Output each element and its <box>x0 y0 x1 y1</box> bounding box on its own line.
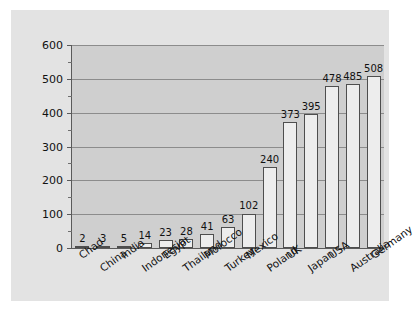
y-axis-minor-tick <box>68 130 72 131</box>
bar[interactable] <box>325 86 339 248</box>
bar-value-label: 240 <box>256 155 284 165</box>
gridline <box>72 45 384 46</box>
bar[interactable] <box>346 84 360 248</box>
chart-panel: 0100200300400500600 23514232841631022403… <box>11 10 389 301</box>
y-axis-labels: 0100200300400500600 <box>11 45 63 248</box>
y-axis-minor-tick <box>68 231 72 232</box>
y-axis-minor-tick <box>68 163 72 164</box>
bar-value-label: 63 <box>214 215 242 225</box>
bar-value-label: 395 <box>297 102 325 112</box>
bar[interactable] <box>304 114 318 248</box>
x-axis-category-labels: ChadChinaIndiaIndonesiaEgyptThailandMoro… <box>11 248 411 311</box>
bar[interactable] <box>367 76 381 248</box>
bar-value-label: 102 <box>235 201 263 211</box>
y-axis-minor-tick <box>68 96 72 97</box>
y-axis-tick <box>67 113 72 114</box>
y-axis-tick <box>67 45 72 46</box>
plot-area: 2351423284163102240373395478485508 <box>71 45 384 249</box>
y-axis-tick-label: 500 <box>15 74 63 85</box>
y-axis-minor-tick <box>68 62 72 63</box>
y-axis-minor-tick <box>68 197 72 198</box>
y-axis-tick <box>67 147 72 148</box>
y-axis-tick-label: 400 <box>15 108 63 119</box>
bar-value-label: 508 <box>360 64 388 74</box>
y-axis-tick-label: 200 <box>15 175 63 186</box>
y-axis-tick-label: 100 <box>15 209 63 220</box>
y-axis-tick <box>67 214 72 215</box>
bar[interactable] <box>283 122 297 248</box>
y-axis-tick <box>67 79 72 80</box>
y-axis-tick <box>67 180 72 181</box>
y-axis-tick-label: 300 <box>15 142 63 153</box>
y-axis-tick-label: 600 <box>15 40 63 51</box>
